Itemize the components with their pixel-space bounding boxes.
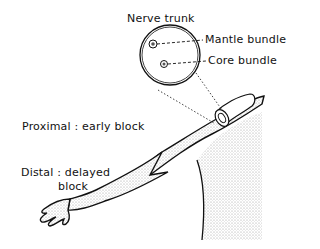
mantle-bundle-label: Mantle bundle	[205, 34, 286, 46]
distal-label-line1: Distal : delayed	[21, 167, 110, 179]
proximal-label: Proximal : early block	[22, 121, 145, 133]
nerve-trunk-cross-section	[140, 25, 206, 85]
distal-label-line2: block	[58, 181, 88, 193]
mantle-bundle-marker	[149, 40, 157, 48]
hand	[40, 199, 70, 226]
core-bundle-marker	[161, 61, 168, 68]
core-bundle-label: Core bundle	[208, 55, 277, 67]
nerve-trunk-label: Nerve trunk	[127, 13, 195, 25]
